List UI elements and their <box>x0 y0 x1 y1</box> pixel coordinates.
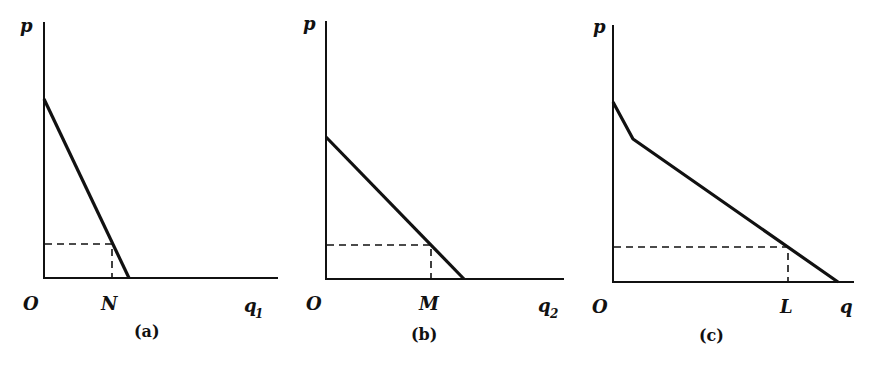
panel-b-dashed-guide <box>327 245 431 278</box>
panel-b-x-label: q <box>538 295 551 316</box>
panel-a-origin-label: O <box>23 293 39 314</box>
panel-b-y-label: p <box>303 13 316 34</box>
panel-c-y-label: p <box>593 16 606 37</box>
panel-b-demand-curve <box>326 137 464 279</box>
panel-c-marker-label: L <box>779 296 793 317</box>
panel-b-caption: (b) <box>411 325 437 344</box>
panel-a: p O N q 1 (a) <box>20 15 278 341</box>
panel-c-dashed-guide <box>614 247 788 281</box>
panel-b-marker-label: M <box>418 293 440 314</box>
panel-c-demand-curve <box>613 102 838 282</box>
panel-a-demand-curve <box>44 99 129 278</box>
panel-a-dashed-guide <box>45 244 112 277</box>
panel-a-x-label-subscript: 1 <box>255 307 263 321</box>
panel-a-caption: (a) <box>134 322 160 341</box>
panel-c-origin-label: O <box>592 296 608 317</box>
panel-c: p O L q (c) <box>592 16 854 345</box>
panel-b-origin-label: O <box>306 293 322 314</box>
panel-a-marker-label: N <box>100 293 119 314</box>
panel-c-caption: (c) <box>699 326 724 345</box>
panel-b: p O M q 2 (b) <box>303 13 564 344</box>
panel-c-x-label: q <box>840 296 853 317</box>
panel-a-y-label: p <box>20 15 33 36</box>
demand-curves-figure: p O N q 1 (a) p O M q 2 (b) p O L q (c) <box>0 0 874 367</box>
panel-b-x-label-subscript: 2 <box>549 307 558 321</box>
